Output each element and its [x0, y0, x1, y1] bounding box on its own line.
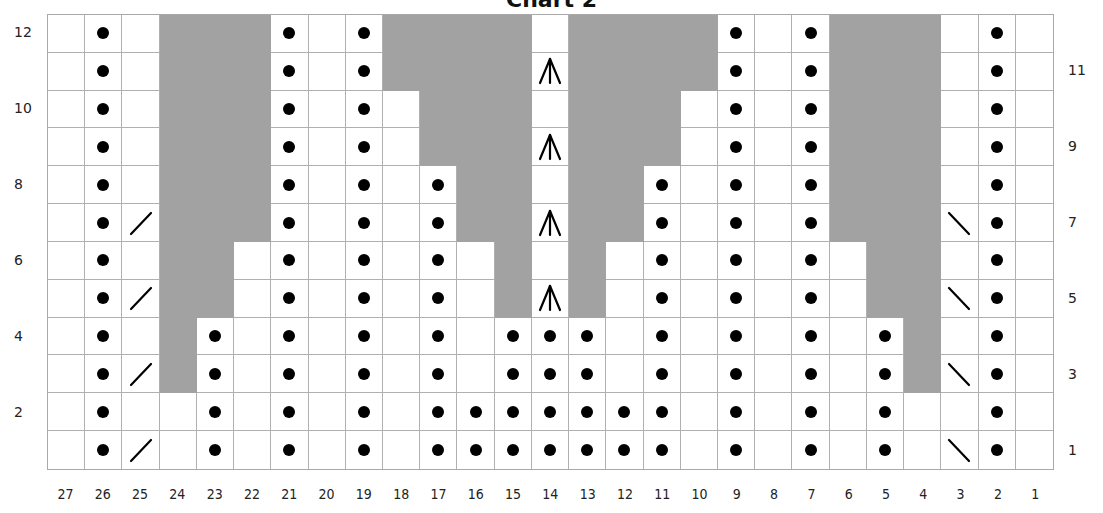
stitch-cell-r6-c27: [48, 242, 85, 280]
stitch-cell-r10-c11: [644, 91, 681, 129]
stitch-cell-r11-c18: [383, 53, 420, 91]
stitch-cell-r9-c20: [309, 128, 346, 166]
stitch-cell-r5-c11: [644, 280, 681, 318]
stitch-cell-r6-c8: [755, 242, 792, 280]
stitch-cell-r9-c8: [755, 128, 792, 166]
stitch-cell-r8-c8: [755, 166, 792, 204]
stitch-cell-r6-c6: [830, 242, 867, 280]
purl-dot-icon: [544, 444, 556, 456]
stitch-cell-r1-c17: [420, 431, 457, 469]
stitch-cell-r4-c17: [420, 318, 457, 356]
stitch-cell-r8-c21: [271, 166, 308, 204]
right-slant-decrease-icon: [126, 208, 156, 238]
stitch-cell-r11-c1: [1016, 53, 1053, 91]
stitch-cell-r7-c24: [160, 204, 197, 242]
stitch-cell-r2-c18: [383, 393, 420, 431]
stitch-cell-r2-c24: [160, 393, 197, 431]
purl-dot-icon: [618, 444, 630, 456]
chart-title: Chart 2: [0, 0, 1103, 12]
stitch-cell-r6-c5: [867, 242, 904, 280]
stitch-cell-r4-c25: [122, 318, 159, 356]
stitch-cell-r11-c6: [830, 53, 867, 91]
stitch-cell-r12-c15: [495, 15, 532, 53]
stitch-cell-r6-c13: [569, 242, 606, 280]
stitch-cell-r4-c16: [457, 318, 494, 356]
stitch-cell-r2-c2: [979, 393, 1016, 431]
purl-dot-icon: [581, 368, 593, 380]
stitch-cell-r7-c17: [420, 204, 457, 242]
right-slant-decrease-icon: [126, 359, 156, 389]
purl-dot-icon: [656, 444, 668, 456]
row-label-right: 7: [1068, 214, 1077, 230]
stitch-cell-r12-c19: [346, 15, 383, 53]
purl-dot-icon: [581, 444, 593, 456]
stitch-cell-r7-c18: [383, 204, 420, 242]
stitch-cell-r6-c22: [234, 242, 271, 280]
stitch-cell-r3-c17: [420, 355, 457, 393]
stitch-cell-r5-c9: [718, 280, 755, 318]
stitch-cell-r5-c16: [457, 280, 494, 318]
stitch-cell-r10-c20: [309, 91, 346, 129]
stitch-cell-r12-c6: [830, 15, 867, 53]
stitch-cell-r12-c8: [755, 15, 792, 53]
purl-dot-icon: [991, 27, 1003, 39]
purl-dot-icon: [805, 179, 817, 191]
stitch-cell-r9-c16: [457, 128, 494, 166]
stitch-cell-r4-c5: [867, 318, 904, 356]
purl-dot-icon: [358, 406, 370, 418]
stitch-cell-r12-c5: [867, 15, 904, 53]
column-label: 19: [345, 486, 382, 502]
stitch-cell-r11-c9: [718, 53, 755, 91]
purl-dot-icon: [283, 27, 295, 39]
stitch-cell-r5-c7: [792, 280, 829, 318]
purl-dot-icon: [283, 368, 295, 380]
stitch-cell-r6-c24: [160, 242, 197, 280]
stitch-cell-r10-c2: [979, 91, 1016, 129]
purl-dot-icon: [991, 368, 1003, 380]
purl-dot-icon: [805, 444, 817, 456]
stitch-cell-r12-c10: [681, 15, 718, 53]
purl-dot-icon: [358, 254, 370, 266]
purl-dot-icon: [97, 65, 109, 77]
purl-dot-icon: [656, 406, 668, 418]
stitch-cell-r1-c18: [383, 431, 420, 469]
stitch-cell-r6-c19: [346, 242, 383, 280]
purl-dot-icon: [544, 406, 556, 418]
stitch-cell-r5-c26: [85, 280, 122, 318]
purl-dot-icon: [991, 103, 1003, 115]
stitch-cell-r1-c7: [792, 431, 829, 469]
row-label-right: 9: [1068, 138, 1077, 154]
stitch-cell-r6-c15: [495, 242, 532, 280]
stitch-cell-r11-c12: [606, 53, 643, 91]
stitch-cell-r12-c23: [197, 15, 234, 53]
stitch-cell-r12-c9: [718, 15, 755, 53]
purl-dot-icon: [730, 141, 742, 153]
purl-dot-icon: [991, 406, 1003, 418]
stitch-cell-r6-c16: [457, 242, 494, 280]
purl-dot-icon: [656, 254, 668, 266]
triple-decrease-icon: [535, 132, 565, 162]
stitch-cell-r9-c13: [569, 128, 606, 166]
stitch-cell-r2-c22: [234, 393, 271, 431]
stitch-cell-r4-c26: [85, 318, 122, 356]
stitch-cell-r10-c25: [122, 91, 159, 129]
triple-decrease-icon: [535, 208, 565, 238]
stitch-cell-r1-c13: [569, 431, 606, 469]
stitch-cell-r8-c25: [122, 166, 159, 204]
purl-dot-icon: [730, 368, 742, 380]
stitch-cell-r8-c27: [48, 166, 85, 204]
purl-dot-icon: [507, 330, 519, 342]
stitch-cell-r5-c4: [904, 280, 941, 318]
stitch-cell-r2-c1: [1016, 393, 1053, 431]
column-label: 8: [756, 486, 793, 502]
stitch-cell-r10-c4: [904, 91, 941, 129]
stitch-cell-r1-c14: [532, 431, 569, 469]
purl-dot-icon: [879, 368, 891, 380]
stitch-cell-r7-c11: [644, 204, 681, 242]
row-label-left: 2: [14, 404, 23, 420]
row-label-right: 11: [1068, 62, 1086, 78]
stitch-cell-r12-c14: [532, 15, 569, 53]
stitch-cell-r5-c23: [197, 280, 234, 318]
stitch-cell-r2-c27: [48, 393, 85, 431]
stitch-cell-r5-c5: [867, 280, 904, 318]
